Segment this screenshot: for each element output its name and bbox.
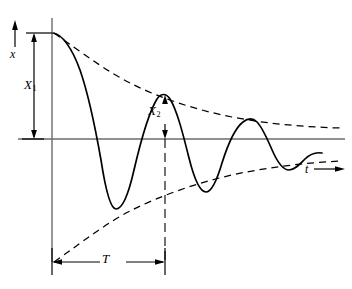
amplitude-x1-subscript: 1 — [32, 84, 37, 93]
x-axis-label: x — [10, 48, 15, 60]
lower-envelope-curve — [54, 161, 340, 262]
period-label: T — [102, 252, 109, 265]
x1-arrow-head-up — [31, 33, 37, 42]
plot-canvas — [0, 0, 352, 289]
upper-envelope-curve — [54, 33, 340, 128]
amplitude-x2-base: X — [148, 103, 156, 118]
damped-oscillation-curve — [53, 33, 322, 209]
t-axis-label: t — [305, 163, 308, 175]
period-arrow-head-right — [155, 259, 165, 265]
amplitude-x2-label: X2 — [148, 104, 160, 119]
x1-arrow-head-down — [31, 130, 37, 139]
damped-oscillation-figure: x t X1 X2 T — [0, 0, 352, 289]
x2-arrow-head-down — [162, 130, 168, 139]
t-label-arrow-head — [335, 166, 345, 172]
x-label-arrow-head — [12, 20, 18, 30]
amplitude-x1-label: X1 — [24, 78, 36, 93]
amplitude-x1-base: X — [24, 77, 32, 92]
amplitude-x2-subscript: 2 — [156, 110, 161, 119]
